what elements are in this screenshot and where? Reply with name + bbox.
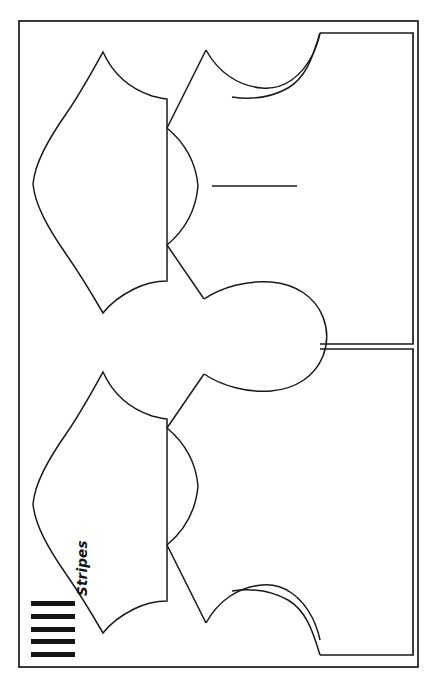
- right-panel-lower: [232, 349, 413, 655]
- stripes-swatch-bar: [31, 627, 75, 632]
- stripes-swatch: [31, 601, 75, 657]
- pattern-layout-canvas: Stripes: [0, 0, 437, 685]
- center-sleeve-bulb: [204, 282, 327, 392]
- bodice-piece-top-left: [33, 52, 167, 313]
- stripes-swatch-bar: [31, 639, 75, 644]
- stripes-swatch-bar: [31, 614, 75, 619]
- bodice-piece-bottom-left: [33, 372, 167, 633]
- stripes-swatch-bar: [31, 601, 75, 606]
- sleeve-outline-bottom: [167, 374, 320, 640]
- sleeve-outline-top: [167, 33, 320, 299]
- stripes-legend-label: Stripes: [72, 532, 92, 596]
- stripes-swatch-bar: [31, 652, 75, 657]
- right-panel-upper: [232, 33, 413, 344]
- pattern-drawing: [0, 0, 437, 685]
